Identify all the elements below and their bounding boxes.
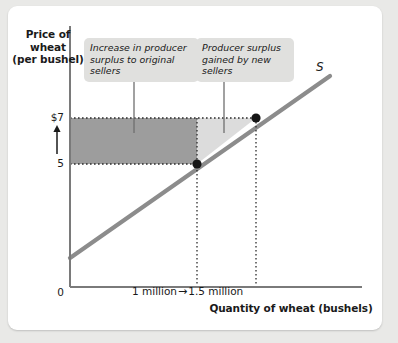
y-axis-title-line-3: (per bushel) — [2, 53, 94, 66]
price-increase-arrow-head — [53, 125, 60, 132]
x-tick-label-1million: 1 million — [132, 285, 177, 297]
callout-original-sellers: Increase in producer surplus to original… — [84, 38, 199, 82]
y-axis-title: Price of wheat (per bushel) — [2, 28, 94, 66]
y-tick-label-7: $7 — [40, 111, 64, 123]
x-tick-labels: 1 million→1.5 million — [132, 285, 322, 298]
callout-new-sellers: Producer surplus gained by new sellers — [196, 38, 294, 82]
y-axis-title-line-2: wheat — [2, 41, 94, 54]
x-tick-label-1-5million: 1.5 million — [188, 285, 243, 297]
origin-label: 0 — [44, 286, 64, 298]
x-axis-title: Quantity of wheat (bushels) — [196, 302, 386, 315]
chart-page: Price of wheat (per bushel) $7 5 0 1 mil… — [0, 0, 398, 343]
supply-curve-label: S — [316, 60, 324, 74]
point-original-equilibrium — [192, 159, 201, 168]
y-tick-label-5: 5 — [40, 157, 64, 169]
y-axis-title-line-1: Price of — [2, 28, 94, 41]
region-new-sellers-surplus — [197, 118, 256, 164]
quantity-increase-arrow-icon: → — [177, 285, 188, 298]
point-new-equilibrium — [251, 113, 260, 122]
